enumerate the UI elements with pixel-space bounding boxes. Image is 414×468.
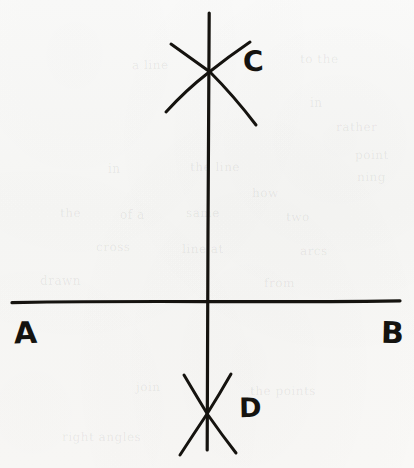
figure-ink-layer bbox=[0, 0, 414, 468]
scanned-diagram-page: a lineto theinratherpointninginthe lineh… bbox=[0, 0, 414, 468]
construction-arc-bottom-left bbox=[184, 375, 236, 453]
point-label-d: D bbox=[239, 394, 262, 421]
construction-arc-bottom-right bbox=[180, 374, 231, 455]
line-cd bbox=[207, 13, 209, 450]
point-label-a: A bbox=[13, 318, 37, 349]
point-label-b: B bbox=[381, 318, 405, 349]
line-ab bbox=[12, 301, 400, 303]
point-label-c: C bbox=[242, 47, 264, 76]
